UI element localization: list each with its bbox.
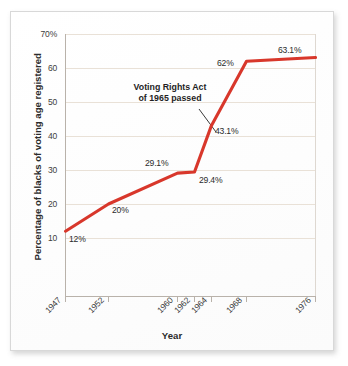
annotation-line-2: of 1965 passed	[138, 93, 201, 103]
data-label-1952: 20%	[112, 205, 129, 215]
data-label-1968: 62%	[217, 58, 234, 68]
data-label-1960: 29.1%	[145, 158, 168, 168]
y-tick-label-70: 70%	[31, 29, 57, 39]
annotation-voting-rights-act: Voting Rights Act of 1965 passed	[118, 82, 222, 104]
data-label-1962: 29.4%	[199, 175, 222, 185]
chart-page: 70% 60 50 40 30 20 10 1947 1952 1960 196…	[0, 0, 348, 366]
data-label-1947: 12%	[69, 234, 86, 244]
annotation-line-1: Voting Rights Act	[134, 82, 207, 92]
chart-card: 70% 60 50 40 30 20 10 1947 1952 1960 196…	[10, 11, 334, 351]
line-chart: 70% 60 50 40 30 20 10 1947 1952 1960 196…	[11, 12, 333, 350]
y-axis-title: Percentage of blacks of voting age regis…	[32, 61, 43, 261]
data-label-1964: 43.1%	[215, 126, 238, 136]
x-axis-title: Year	[11, 330, 333, 341]
data-label-1976: 63.1%	[278, 45, 301, 55]
